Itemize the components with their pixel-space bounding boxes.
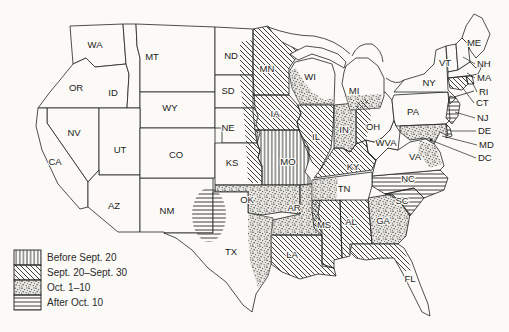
label-ar: AR [287,202,300,213]
figure-page: WA OR ID MT WY NV UT CA AZ NM CO ND SD N… [0,0,509,332]
label-wi: WI [304,71,316,82]
legend-swatch-after-oct-10 [14,295,41,310]
us-map: WA OR ID MT WY NV UT CA AZ NM CO ND SD N… [0,0,509,332]
label-nh: NH [477,58,491,69]
label-tx: TX [225,246,238,257]
label-co: CO [169,149,183,160]
label-nm: NM [160,205,175,216]
label-nd: ND [224,50,238,61]
label-ri: RI [479,86,489,97]
label-ks: KS [226,157,239,168]
long-island-shore [454,91,474,97]
label-az: AZ [108,200,120,211]
callout-line-ct [462,87,474,103]
region-tennessee-west [312,177,338,200]
label-al: AL [345,216,357,227]
legend-label-after-oct-10: After Oct. 10 [47,297,104,308]
dc-marker [429,138,432,141]
state-ut [99,108,140,175]
label-wva: WVA [376,137,398,148]
label-id: ID [108,87,118,98]
label-or: OR [69,82,83,93]
label-fl: FL [404,273,415,284]
callout-line-md [442,136,477,145]
label-ia: IA [271,108,281,119]
label-pa: PA [407,106,420,117]
label-mt: MT [145,51,159,62]
lake-erie-shore [386,78,404,83]
label-ga: GA [376,215,390,226]
label-de: DE [478,125,491,136]
label-ma: MA [477,72,492,83]
legend-swatch-oct-1-10 [14,280,41,295]
label-ut: UT [114,144,127,155]
label-wa: WA [88,39,104,50]
legend-label-sept-20-30: Sept. 20–Sept. 30 [47,267,128,278]
legend-swatch-before-sept-20 [14,250,41,265]
label-sc: SC [395,195,408,206]
label-in: IN [339,124,349,135]
label-nj: NJ [477,112,489,123]
label-la: LA [286,249,298,260]
legend: Before Sept. 20 Sept. 20–Sept. 30 Oct. 1… [14,250,128,310]
legend-label-oct-1-10: Oct. 1–10 [47,282,91,293]
label-dc: DC [478,152,492,163]
state-or [38,58,129,108]
label-me: ME [467,37,481,48]
label-nc: NC [401,173,415,184]
legend-label-before-sept-20: Before Sept. 20 [47,252,117,263]
region-texas-panhandle [192,188,226,242]
label-tn: TN [338,183,351,194]
label-mi: MI [349,85,360,96]
label-ca: CA [48,156,62,167]
label-ny: NY [422,77,436,88]
label-sd: SD [221,85,234,96]
label-ne: NE [221,122,234,133]
label-ms: MS [317,219,331,230]
label-ok: OK [240,194,254,205]
label-nv: NV [67,127,81,138]
label-il: IL [312,131,320,142]
label-vt: VT [439,57,451,68]
callout-line-ri [472,82,477,92]
label-mn: MN [260,63,275,74]
label-wy: WY [162,102,178,113]
state-ct [448,76,468,90]
legend-swatch-sept-20-30 [14,265,41,280]
label-oh: OH [366,121,380,132]
label-ky: KY [347,161,360,172]
label-va: VA [409,151,422,162]
label-md: MD [479,139,494,150]
label-mo: MO [280,156,295,167]
label-ct: CT [476,97,489,108]
state-pa [392,92,450,126]
